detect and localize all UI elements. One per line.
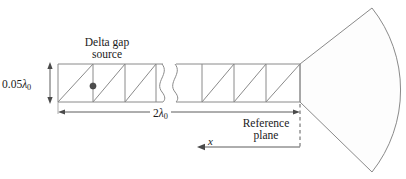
basis-diagonals-right: [202, 64, 300, 102]
length-subscript: 0: [164, 112, 168, 121]
figure-root: Delta gap source 0.05λ0 2λ0 Reference pl…: [0, 0, 406, 179]
horn-flare: [300, 8, 401, 172]
waveguide-height-label: 0.05λ0: [2, 78, 31, 93]
waveguide-length-label: 2λ0: [150, 107, 171, 122]
x-axis-label: x: [208, 136, 213, 148]
cell-dividers-right: [202, 64, 300, 102]
waveguide-right-segment: [183, 64, 300, 102]
basis-diagonals-left: [58, 64, 156, 102]
delta-gap-source-label: Delta gap source: [60, 36, 154, 61]
height-subscript: 0: [27, 83, 31, 92]
source-label-line1: Delta gap: [85, 36, 129, 48]
waveguide-left-segment: [58, 64, 156, 102]
source-label-line2: source: [92, 48, 122, 60]
height-dimension-line: [47, 62, 52, 104]
cell-dividers-left: [93, 64, 156, 102]
height-value: 0.05: [2, 78, 22, 90]
delta-gap-source-marker: [90, 83, 96, 89]
reference-plane-label: Reference plane: [228, 117, 304, 142]
reference-plane-line2: plane: [254, 129, 279, 141]
length-dimension-line: [58, 102, 300, 115]
reference-plane-line1: Reference: [243, 117, 290, 129]
break-symbol: [156, 64, 183, 102]
antenna-diagram-svg: [0, 0, 406, 179]
